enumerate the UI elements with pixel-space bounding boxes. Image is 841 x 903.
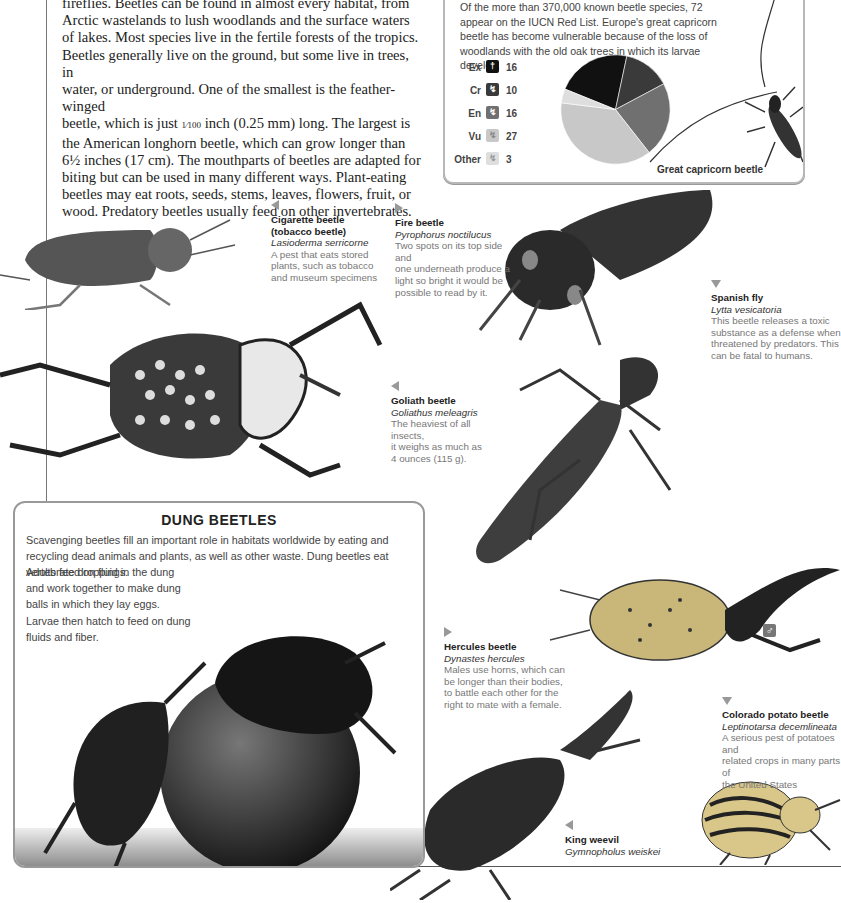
arrow-right-icon: [444, 627, 452, 637]
critical-icon: ↯: [486, 83, 499, 96]
label-goliath-beetle: Goliath beetle Goliathus meleagris The h…: [391, 381, 501, 465]
dung-beetles-title: DUNG BEETLES: [15, 512, 423, 528]
dung-beetles-panel: DUNG BEETLES Scavenging beetles fill an …: [13, 501, 425, 868]
extinct-icon: †: [486, 60, 499, 73]
arrow-down-icon: [711, 280, 721, 288]
red-list-panel: Of the more than 370,000 known beetle sp…: [443, 0, 805, 184]
spanish-fly-illustration: [470, 340, 680, 570]
legend-item-en: En ↯ 16: [445, 106, 545, 129]
label-cigarette-beetle: Cigarette beetle (tobacco beetle) Lasiod…: [271, 200, 391, 284]
other-icon: ↯: [486, 152, 499, 165]
arrow-right-icon: [395, 203, 403, 213]
arrow-down-icon: [722, 697, 732, 705]
hercules-beetle-illustration: [540, 540, 840, 680]
legend-item-cr: Cr ↯ 10: [445, 83, 545, 106]
legend-item-vu: Vu ↯ 27: [445, 129, 545, 152]
vulnerable-icon: ↯: [486, 129, 499, 142]
great-capricorn-beetle-illustration: [625, 0, 803, 182]
fraction: 1⁄100: [182, 120, 202, 130]
legend-item-ex: Ex † 16: [445, 60, 545, 83]
male-symbol-icon: ♂: [763, 624, 776, 637]
label-spanish-fly: Spanish fly Lytta vesicatoria This beetl…: [711, 280, 841, 362]
endangered-icon: ↯: [486, 106, 499, 119]
capricorn-caption: Great capricorn beetle: [657, 164, 763, 175]
label-colorado-potato-beetle: Colorado potato beetle Leptinotarsa dece…: [722, 697, 841, 790]
arrow-left-icon: [565, 820, 573, 830]
arrow-left-icon: [391, 381, 399, 391]
label-king-weevil: King weevil Gymnopholus weiskei: [565, 820, 675, 857]
goliath-beetle-illustration: [0, 285, 390, 495]
pie-legend: Ex † 16 Cr ↯ 10 En ↯ 16 Vu ↯ 27 Other ↯ …: [445, 60, 545, 175]
legend-item-other: Other ↯ 3: [445, 152, 545, 175]
label-fire-beetle: Fire beetle Pyrophorus noctilucus Two sp…: [395, 203, 520, 298]
arrow-left-icon: [271, 200, 279, 210]
intro-paragraph: fireflies. Beetles can be found in almos…: [62, 0, 422, 221]
label-hercules-beetle: Hercules beetle Dynastes hercules Males …: [444, 627, 574, 711]
dung-beetle-illustration: [15, 623, 423, 868]
